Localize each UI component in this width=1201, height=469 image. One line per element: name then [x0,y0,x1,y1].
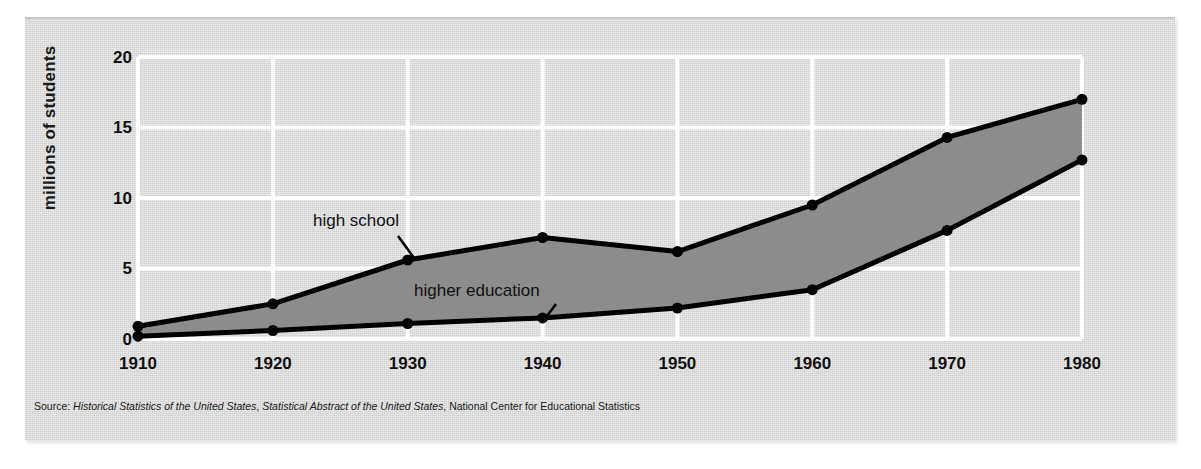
source-italic-1: Historical Statistics of the United Stat… [73,400,256,412]
series-annotation-higher-education: higher education [414,281,540,301]
x-tick-1910: 1910 [93,354,183,374]
x-tick-1920: 1920 [228,354,318,374]
x-tick-1940: 1940 [498,354,588,374]
y-tick-20: 20 [92,48,132,68]
x-tick-1960: 1960 [767,354,857,374]
x-tick-1980: 1980 [1037,354,1127,374]
x-tick-1950: 1950 [632,354,722,374]
series-annotation-high-school: high school [313,211,399,231]
source-prefix: Source: [34,400,70,412]
x-tick-1930: 1930 [363,354,453,374]
chart-figure: millions of students 20 15 10 5 0 1910 1… [0,0,1201,469]
source-sep-1: , [256,400,259,412]
y-tick-10: 10 [92,189,132,209]
source-tail: National Center for Educational Statisti… [449,400,640,412]
y-tick-0: 0 [92,330,132,350]
y-axis-title: millions of students [40,18,60,238]
source-italic-2: Statistical Abstract of the United State… [262,400,443,412]
y-tick-15: 15 [92,118,132,138]
source-sep-2: , [443,400,446,412]
y-tick-5: 5 [92,259,132,279]
source-caption: Source: Historical Statistics of the Uni… [34,400,640,412]
chart-plot-area [0,0,1201,469]
x-tick-1970: 1970 [902,354,992,374]
